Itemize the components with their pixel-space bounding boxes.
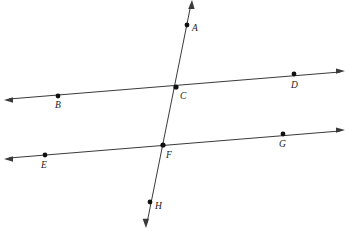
arrow-head-eg-right-icon xyxy=(336,127,345,132)
arrow-head-ah-top-icon xyxy=(188,0,194,9)
line-lower-parallel-eg xyxy=(4,127,345,161)
geometry-diagram: A B C D E F G H xyxy=(0,0,349,231)
line-segment-eg xyxy=(9,131,340,158)
line-transversal-ah xyxy=(143,0,195,228)
point-f-intersection xyxy=(160,142,165,147)
line-segment-ah xyxy=(147,4,191,223)
point-d xyxy=(292,72,297,77)
point-b xyxy=(56,94,61,99)
point-g xyxy=(281,132,286,137)
arrow-head-ah-bottom-icon xyxy=(143,219,149,228)
arrow-head-eg-left-icon xyxy=(4,156,13,161)
point-label-c: C xyxy=(180,91,187,101)
point-label-e: E xyxy=(40,160,47,170)
labeled-points: A B C D E F G H xyxy=(40,23,298,211)
geometry-canvas: A B C D E F G H xyxy=(0,0,349,231)
arrow-head-bd-left-icon xyxy=(4,97,13,102)
point-label-a: A xyxy=(191,23,198,33)
point-label-d: D xyxy=(290,80,298,90)
arrow-head-bd-right-icon xyxy=(336,68,345,73)
point-a xyxy=(185,23,190,28)
point-e xyxy=(43,153,48,158)
point-c-intersection xyxy=(173,84,178,89)
point-label-f: F xyxy=(165,150,172,160)
point-label-g: G xyxy=(279,139,286,149)
point-label-h: H xyxy=(154,201,163,211)
point-label-b: B xyxy=(55,100,61,110)
point-h xyxy=(148,200,153,205)
